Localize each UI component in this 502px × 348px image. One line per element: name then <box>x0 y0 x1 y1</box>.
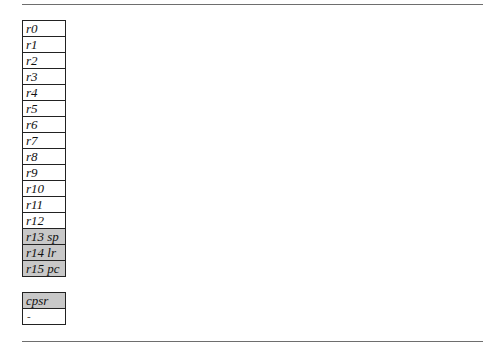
cpsr-value: - <box>23 309 65 325</box>
bottom-rule <box>22 341 483 342</box>
register-r1: r1 <box>23 37 65 53</box>
register-r7: r7 <box>23 133 65 149</box>
register-r6: r6 <box>23 117 65 133</box>
register-file: r0 r1 r2 r3 r4 r5 r6 r7 r8 r9 r10 r11 r1… <box>22 20 66 277</box>
register-r9: r9 <box>23 165 65 181</box>
cpsr-label: cpsr <box>23 293 65 309</box>
register-r5: r5 <box>23 101 65 117</box>
register-r14-lr: r14 lr <box>23 245 65 261</box>
register-r3: r3 <box>23 69 65 85</box>
register-r10: r10 <box>23 181 65 197</box>
register-r0: r0 <box>23 21 65 37</box>
register-r4: r4 <box>23 85 65 101</box>
register-r11: r11 <box>23 197 65 213</box>
top-rule <box>22 4 483 5</box>
register-r13-sp: r13 sp <box>23 229 65 245</box>
register-r8: r8 <box>23 149 65 165</box>
register-r2: r2 <box>23 53 65 69</box>
register-r12: r12 <box>23 213 65 229</box>
register-r15-pc: r15 pc <box>23 261 65 277</box>
cpsr-box: cpsr - <box>22 292 66 325</box>
